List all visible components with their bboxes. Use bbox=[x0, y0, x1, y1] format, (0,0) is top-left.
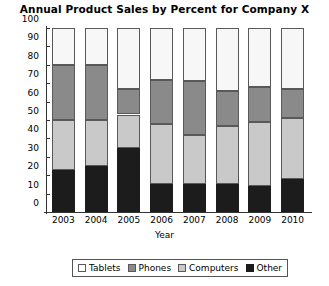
bar-segment-other bbox=[216, 184, 239, 212]
legend-label: Tablets bbox=[89, 263, 121, 273]
bar-segment-other bbox=[52, 170, 75, 212]
y-axis-tick-label: 50 bbox=[28, 107, 46, 116]
bar-segment-other bbox=[117, 148, 140, 212]
bar-segment-other bbox=[85, 166, 108, 212]
y-axis-tick-mark bbox=[46, 46, 50, 47]
bar-segment-computers bbox=[248, 122, 271, 186]
bar-segment-computers bbox=[281, 118, 304, 179]
legend-label: Computers bbox=[189, 263, 238, 273]
x-axis-tick-label: 2010 bbox=[273, 215, 313, 225]
stacked-bar-chart: Annual Product Sales by Percent for Comp… bbox=[0, 0, 329, 286]
bar-segment-computers bbox=[52, 120, 75, 170]
bar-segment-tablets bbox=[150, 28, 173, 80]
legend-item-phones: Phones bbox=[128, 263, 172, 273]
y-axis-tick-mark bbox=[46, 102, 50, 103]
bar-segment-computers bbox=[183, 135, 206, 185]
bar-group bbox=[117, 28, 140, 212]
bar-segment-phones bbox=[248, 87, 271, 122]
y-axis-tick-mark bbox=[46, 157, 50, 158]
y-axis-tick-label: 20 bbox=[28, 162, 46, 171]
bar-segment-phones bbox=[183, 81, 206, 134]
y-axis-tick-mark bbox=[46, 175, 50, 176]
y-axis-tick-mark bbox=[46, 28, 50, 29]
y-axis-tick-label: 0 bbox=[33, 199, 46, 208]
legend-swatch-phones-icon bbox=[128, 264, 136, 272]
x-axis-line bbox=[44, 212, 312, 213]
bar-group bbox=[216, 28, 239, 212]
bar-segment-phones bbox=[150, 80, 173, 124]
bar-group bbox=[183, 28, 206, 212]
legend-item-computers: Computers bbox=[178, 263, 238, 273]
bar-segment-tablets bbox=[281, 28, 304, 89]
bar-segment-tablets bbox=[52, 28, 75, 65]
legend-label: Other bbox=[257, 263, 283, 273]
y-axis-tick-label: 60 bbox=[28, 88, 46, 97]
y-axis-tick-label: 100 bbox=[22, 15, 46, 24]
bar-segment-tablets bbox=[248, 28, 271, 87]
y-axis-tick-label: 80 bbox=[28, 51, 46, 60]
bar-segment-phones bbox=[117, 89, 140, 115]
bar-segment-computers bbox=[85, 120, 108, 166]
bar-segment-phones bbox=[52, 65, 75, 120]
chart-title: Annual Product Sales by Percent for Comp… bbox=[0, 3, 329, 15]
bar-group bbox=[281, 28, 304, 212]
legend-item-other: Other bbox=[246, 263, 283, 273]
bar-segment-other bbox=[248, 186, 271, 212]
y-axis-tick-mark bbox=[46, 65, 50, 66]
bar-group bbox=[85, 28, 108, 212]
bar-group bbox=[150, 28, 173, 212]
y-axis-tick-mark bbox=[46, 120, 50, 121]
bar-segment-tablets bbox=[117, 28, 140, 89]
chart-legend: TabletsPhonesComputersOther bbox=[72, 259, 288, 277]
legend-swatch-other-icon bbox=[246, 264, 254, 272]
y-axis-tick-mark bbox=[46, 83, 50, 84]
y-axis-tick-mark bbox=[46, 194, 50, 195]
bar-segment-other bbox=[281, 179, 304, 212]
legend-item-tablets: Tablets bbox=[78, 263, 121, 273]
legend-swatch-computers-icon bbox=[178, 264, 186, 272]
bar-segment-tablets bbox=[183, 28, 206, 81]
y-axis-tick-label: 90 bbox=[28, 33, 46, 42]
bar-segment-other bbox=[150, 184, 173, 212]
bar-segment-phones bbox=[216, 91, 239, 126]
y-axis-tick-label: 10 bbox=[28, 180, 46, 189]
legend-label: Phones bbox=[139, 263, 172, 273]
plot-area: 0102030405060708090100 bbox=[46, 28, 308, 212]
bar-segment-computers bbox=[150, 124, 173, 185]
bar-group bbox=[52, 28, 75, 212]
y-axis-tick-label: 40 bbox=[28, 125, 46, 134]
bar-segment-computers bbox=[117, 115, 140, 148]
y-axis-tick-mark bbox=[46, 138, 50, 139]
bar-segment-computers bbox=[216, 126, 239, 185]
y-axis-tick-mark bbox=[46, 212, 50, 213]
bar-segment-tablets bbox=[85, 28, 108, 65]
bar-segment-phones bbox=[85, 65, 108, 120]
legend-swatch-tablets-icon bbox=[78, 264, 86, 272]
x-axis-label: Year bbox=[0, 230, 329, 240]
bar-segment-tablets bbox=[216, 28, 239, 91]
bar-segment-phones bbox=[281, 89, 304, 118]
y-axis-tick-label: 30 bbox=[28, 143, 46, 152]
bar-segment-other bbox=[183, 184, 206, 212]
bar-group bbox=[248, 28, 271, 212]
y-axis-tick-label: 70 bbox=[28, 70, 46, 79]
